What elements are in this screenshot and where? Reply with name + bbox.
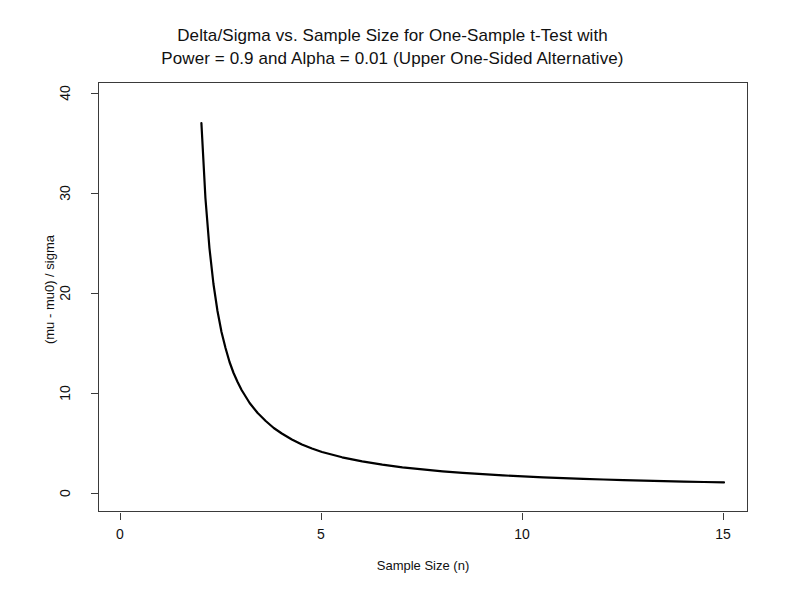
x-tick-label-5: 5 [296,526,346,542]
chart-figure: Delta/Sigma vs. Sample Size for One-Samp… [0,0,785,606]
y-tick-mark-40 [91,93,98,94]
y-tick-mark-30 [91,193,98,194]
y-tick-mark-20 [91,293,98,294]
y-tick-label-20: 20 [57,273,73,313]
y-tick-label-0: 0 [57,473,73,513]
x-tick-mark-15 [723,513,724,520]
plot-area [98,82,748,512]
data-series-line [201,123,724,482]
y-tick-label-40: 40 [57,73,73,113]
y-tick-label-30: 30 [57,173,73,213]
x-tick-mark-5 [321,513,322,520]
y-tick-mark-10 [91,393,98,394]
y-tick-mark-0 [91,493,98,494]
x-tick-mark-0 [120,513,121,520]
x-tick-label-10: 10 [497,526,547,542]
x-tick-label-15: 15 [698,526,748,542]
x-tick-label-0: 0 [95,526,145,542]
chart-title: Delta/Sigma vs. Sample Size for One-Samp… [0,24,785,70]
y-tick-label-10: 10 [57,373,73,413]
x-tick-mark-10 [522,513,523,520]
x-axis-label: Sample Size (n) [98,558,748,573]
plot-svg [99,83,749,513]
y-axis-label: (mu - mu0) / sigma [42,200,57,380]
